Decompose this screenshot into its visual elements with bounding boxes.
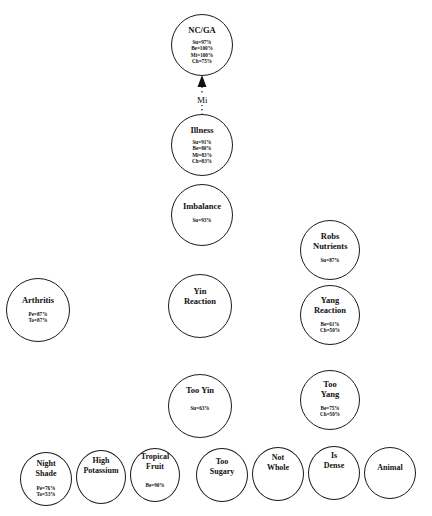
node-stats: Be=90%	[131, 482, 179, 488]
node-title: Tropical Fruit	[131, 452, 179, 472]
node-title: Not Whole	[253, 453, 303, 473]
node-title: Too Yang	[301, 379, 359, 399]
node-title: High Potassium	[77, 456, 125, 476]
node-yang-reaction[interactable]: Yang Reaction Be=61%Ch=50%	[300, 285, 360, 345]
node-stats: Su=63%	[169, 405, 231, 411]
node-too-yin[interactable]: Too Yin Su=63%	[168, 374, 232, 438]
node-title: Is Dense	[309, 451, 359, 471]
node-stats: Su=87%	[301, 257, 359, 263]
node-not-whole[interactable]: Not Whole	[252, 447, 304, 501]
node-ncga[interactable]: NC/GA Su=97%Be=100%Mi=100%Ch=75%	[171, 14, 233, 76]
node-stats: Su=97%Be=100%Mi=100%Ch=75%	[172, 39, 232, 65]
edge-label-mi: Mi	[196, 95, 209, 105]
node-title: Too Yin	[169, 385, 231, 395]
node-title: Arthritis	[7, 295, 69, 305]
node-robs-nutrients[interactable]: Robs Nutrients Su=87%	[300, 220, 360, 280]
node-is-dense[interactable]: Is Dense	[308, 446, 360, 500]
node-tropical-fruit[interactable]: Tropical Fruit Be=90%	[130, 448, 180, 502]
node-title: NC/GA	[172, 25, 232, 35]
node-illness[interactable]: Illness Su=91%Be=80%Mi=83%Ch=83%	[171, 114, 233, 176]
node-title: Night Shade	[21, 459, 71, 479]
node-stats: Pe=87%To=87%	[7, 311, 69, 324]
node-night-shade[interactable]: Night Shade Pe=76%To=53%	[20, 452, 72, 506]
node-title: Animal	[365, 463, 415, 473]
node-high-potassium[interactable]: High Potassium	[76, 450, 126, 504]
node-stats: Be=61%Ch=50%	[301, 321, 359, 334]
node-stats: Su=93%	[172, 217, 232, 223]
node-stats: Be=75%Ch=50%	[301, 405, 359, 418]
node-animal[interactable]: Animal	[364, 447, 416, 499]
arrowhead-icon	[198, 75, 207, 87]
node-stats: Su=91%Be=80%Mi=83%Ch=83%	[172, 139, 232, 165]
node-title: Robs Nutrients	[301, 231, 359, 251]
node-yin-reaction[interactable]: Yin Reaction	[168, 274, 232, 338]
node-title: Illness	[172, 125, 232, 135]
node-title: Imbalance	[172, 201, 232, 211]
node-too-sugary[interactable]: Too Sugary	[196, 448, 248, 502]
node-title: Too Sugary	[197, 457, 247, 477]
node-imbalance[interactable]: Imbalance Su=93%	[171, 184, 233, 246]
node-stats: Pe=76%To=53%	[21, 485, 71, 498]
edges-layer	[0, 0, 432, 516]
node-title: Yin Reaction	[169, 286, 231, 306]
node-too-yang[interactable]: Too Yang Be=75%Ch=50%	[300, 370, 360, 430]
node-title: Yang Reaction	[301, 295, 359, 315]
node-arthritis[interactable]: Arthritis Pe=87%To=87%	[6, 278, 70, 342]
